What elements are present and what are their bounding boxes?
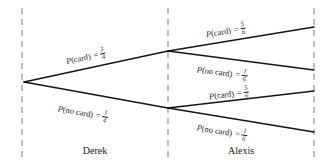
label-alexis-no-card-lower-event: no card: [204, 125, 230, 138]
branch-derek-no-card: [24, 82, 168, 108]
label-derek-card-equals: =: [93, 50, 100, 60]
probability-tree-diagram: P(card)=34 P(no card)=14 P(card)=56 P(no…: [0, 0, 333, 166]
label-alexis-card-lower-close-paren: ): [231, 89, 235, 98]
tree-canvas: [0, 0, 333, 166]
label-alexis-no-card-upper-close-paren: ): [229, 69, 233, 78]
label-derek-no-card-event: no card: [65, 106, 91, 119]
label-alexis-no-card-lower-close-paren: ): [229, 129, 233, 138]
label-alexis-card-lower-event: card: [216, 90, 231, 101]
label-alexis-no-card-upper-equals: =: [235, 70, 241, 80]
label-derek-no-card-equals: =: [95, 111, 101, 121]
label-alexis-card-lower-equals: =: [236, 88, 242, 97]
stage-label-alexis: Alexis: [228, 146, 254, 156]
label-derek-no-card-close-paren: ): [89, 110, 93, 119]
label-derek-card-close-paren: ): [87, 52, 92, 61]
label-alexis-card-upper-denominator: 6: [240, 27, 246, 35]
label-alexis-card-lower-denominator: 6: [244, 91, 250, 99]
label-alexis-no-card-lower-equals: =: [234, 130, 240, 140]
stage-label-derek: Derek: [83, 146, 107, 156]
label-alexis-card-upper-close-paren: ): [227, 26, 231, 35]
label-alexis-no-card-upper-denominator: 6: [241, 75, 247, 83]
label-alexis-card-upper-equals: =: [233, 25, 239, 35]
label-alexis-no-card-upper-event: no card: [204, 66, 230, 78]
